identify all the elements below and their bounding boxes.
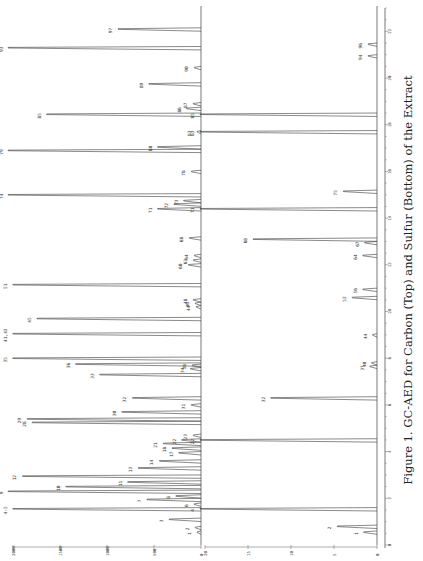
peak bbox=[196, 306, 201, 309]
time-tick-label: 14 bbox=[387, 215, 392, 220]
peak bbox=[8, 149, 201, 152]
peak-label: 17 bbox=[169, 451, 174, 457]
peak bbox=[194, 66, 201, 69]
intensity-tick-label: 0 bbox=[375, 553, 380, 556]
peak-label: 21 bbox=[153, 442, 158, 448]
peak-label: 78 bbox=[181, 170, 186, 176]
peak-label: 7 bbox=[137, 499, 142, 502]
peak-label: 14 bbox=[150, 459, 155, 465]
peak-label: 35 bbox=[3, 357, 8, 363]
peak-label: 2 bbox=[327, 526, 332, 529]
peak bbox=[373, 334, 377, 337]
peak-label: 79 bbox=[0, 149, 4, 155]
peak-label: 52 bbox=[342, 296, 347, 302]
peak-label: 83 bbox=[190, 130, 195, 136]
peak bbox=[343, 190, 377, 193]
peak-label: 45 bbox=[27, 317, 32, 323]
peak bbox=[200, 508, 377, 511]
peak bbox=[193, 103, 201, 106]
peak bbox=[191, 170, 201, 173]
peak bbox=[190, 368, 201, 371]
peak-label: 64 bbox=[353, 254, 358, 260]
peak bbox=[160, 460, 201, 463]
peak-label: 30 bbox=[112, 410, 117, 416]
figure-caption: Figure 1. GC-AED for Carbon (Top) and Su… bbox=[401, 75, 415, 485]
peak bbox=[194, 254, 201, 257]
time-tick-label: 4 bbox=[387, 450, 392, 453]
peak bbox=[200, 439, 377, 442]
peak-label: 9 bbox=[0, 491, 4, 494]
peak-label: 31 bbox=[181, 403, 186, 409]
peak-label: 97 bbox=[108, 28, 113, 34]
time-tick-label: 10 bbox=[387, 309, 392, 314]
peak bbox=[253, 238, 377, 241]
peak bbox=[158, 146, 201, 149]
peak bbox=[179, 452, 201, 455]
intensity-tick-label: 5 bbox=[332, 553, 337, 556]
peak bbox=[197, 531, 201, 534]
peak bbox=[189, 237, 201, 240]
peak-label: 56 bbox=[353, 288, 358, 294]
peak-label: 87 bbox=[183, 102, 188, 108]
peak-label: 33 bbox=[90, 373, 95, 379]
peak bbox=[27, 418, 201, 421]
peak bbox=[132, 397, 201, 400]
peak-label: 68 bbox=[243, 238, 248, 244]
peak bbox=[8, 490, 201, 493]
peak-label: 1 bbox=[187, 532, 192, 535]
peak bbox=[200, 208, 377, 211]
peak-label: 72 bbox=[164, 203, 169, 209]
peak bbox=[138, 467, 201, 470]
peak bbox=[188, 264, 201, 267]
peak-label: 4 bbox=[190, 509, 195, 512]
time-tick-label: 16 bbox=[387, 168, 392, 173]
peak-label: 6 bbox=[184, 504, 189, 507]
peak-label: 90 bbox=[184, 66, 189, 72]
peak bbox=[184, 199, 201, 202]
peak bbox=[372, 362, 377, 365]
intensity-tick-label: 15 bbox=[246, 551, 251, 556]
peak-label: 4-5 bbox=[3, 506, 8, 514]
peak bbox=[22, 475, 201, 478]
peak bbox=[195, 526, 201, 529]
peak bbox=[8, 194, 201, 197]
peak bbox=[363, 288, 377, 291]
peak bbox=[13, 357, 201, 360]
peak-label: 1 bbox=[354, 532, 359, 535]
peak-label: 2 bbox=[185, 527, 190, 530]
peak-label: 85 bbox=[190, 113, 195, 119]
peak bbox=[365, 241, 377, 244]
time-tick-label: 6 bbox=[387, 403, 392, 406]
time-tick-label: 20 bbox=[387, 75, 392, 80]
peak bbox=[368, 55, 377, 58]
peak bbox=[147, 498, 201, 501]
peak-label: 36 bbox=[66, 363, 71, 369]
peak-label: 29 bbox=[17, 417, 22, 423]
peak bbox=[193, 259, 201, 262]
peak bbox=[192, 364, 201, 367]
peak-label: 86 bbox=[177, 107, 182, 113]
peak bbox=[13, 283, 201, 286]
peak bbox=[13, 508, 201, 511]
intensity-tick-label: 1500 bbox=[58, 546, 63, 556]
peak-label: 22 bbox=[172, 438, 177, 444]
time-tick-label: 2 bbox=[387, 497, 392, 500]
peak bbox=[100, 373, 201, 376]
peak bbox=[200, 131, 377, 134]
peak-label: 48 bbox=[183, 298, 188, 304]
time-tick-label: 0 bbox=[387, 543, 392, 546]
peak bbox=[8, 46, 201, 49]
peak-label: 18 bbox=[162, 447, 167, 453]
peak-label: 74 bbox=[0, 193, 4, 199]
peak bbox=[364, 531, 377, 534]
peak-label: 75 bbox=[333, 190, 338, 196]
peak-label: 44 bbox=[363, 333, 368, 339]
peak bbox=[193, 434, 201, 437]
peak-label: 85 bbox=[37, 113, 42, 119]
peak bbox=[118, 28, 201, 31]
peak-label: 51 bbox=[3, 283, 8, 289]
peak bbox=[191, 404, 201, 407]
peak-label: 11 bbox=[118, 480, 123, 486]
chromatogram-figure: 05001000150020001234-5678910111213141718… bbox=[0, 0, 423, 561]
peak bbox=[128, 481, 201, 484]
